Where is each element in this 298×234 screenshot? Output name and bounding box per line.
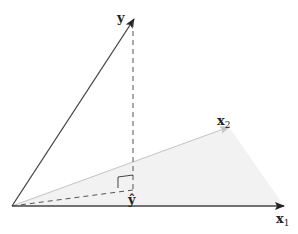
x1-label-sub: 1 [284, 218, 290, 228]
projection-diagram: y x2 x1 ŷ [0, 0, 298, 234]
y-hat-label: ŷ [127, 192, 136, 207]
span-plane [12, 127, 284, 206]
x2-label-sub: 2 [225, 120, 231, 130]
x1-label: x1 [276, 211, 290, 228]
y-label: y [116, 10, 125, 25]
x2-label: x2 [217, 113, 231, 130]
